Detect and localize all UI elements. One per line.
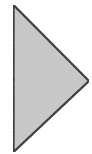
canvas [0, 0, 92, 154]
right-pointing-triangle-icon [0, 0, 92, 154]
triangle-shape [14, 5, 90, 152]
